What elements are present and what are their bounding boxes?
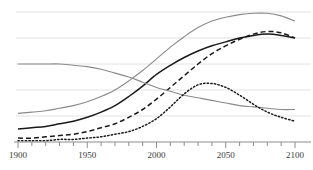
x-tick-label-1900: 1900 [9, 150, 28, 160]
series-line-1 [18, 34, 295, 129]
x-axis [14, 142, 311, 148]
x-tick-label-2000: 2000 [148, 150, 167, 160]
chart-container: 19001950200020502100 [0, 0, 313, 170]
data-series-group [18, 13, 295, 141]
series-line-4 [18, 83, 295, 141]
line-chart: 19001950200020502100 [0, 0, 313, 170]
x-tick-label-2100: 2100 [286, 150, 305, 160]
series-line-3 [18, 64, 295, 110]
x-tick-label-2050: 2050 [217, 150, 236, 160]
x-tick-labels: 19001950200020502100 [9, 150, 305, 160]
x-tick-label-1950: 1950 [78, 150, 97, 160]
series-line-2 [18, 31, 295, 138]
